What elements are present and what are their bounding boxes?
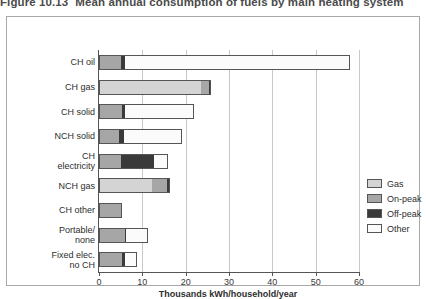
bar-segment-on-peak — [99, 55, 121, 70]
bar-segment-off-peak — [209, 80, 211, 95]
bar-segment-on-peak — [99, 129, 119, 144]
legend-swatch-icon — [367, 224, 382, 233]
figure-caption-text: Mean annual consumption of fuels by main… — [75, 0, 403, 8]
bar-segment-on-peak — [99, 154, 121, 169]
x-tick-label: 10 — [127, 277, 157, 287]
x-tick-mark — [272, 272, 273, 276]
x-tick-mark — [316, 272, 317, 276]
legend-label: Other — [387, 224, 410, 234]
category-label: NCH solid — [9, 131, 95, 141]
x-axis-title: Thousands kWh/household/year — [98, 289, 358, 299]
bar-row: CH solid — [99, 104, 359, 119]
x-tick-label: 60 — [344, 277, 374, 287]
bar-row: CH electricity — [99, 154, 359, 169]
bar-segment-on-peak — [99, 203, 121, 218]
category-label: CH other — [9, 205, 95, 215]
bar-segment-off-peak — [121, 154, 154, 169]
x-tick-mark — [99, 272, 100, 276]
legend-swatch-icon — [367, 179, 382, 188]
gridline — [359, 50, 360, 272]
bar-row: CH oil — [99, 55, 359, 70]
bar-segment-on-peak — [201, 80, 209, 95]
x-tick-label: 30 — [214, 277, 244, 287]
bar-row: CH other — [99, 203, 359, 218]
category-label: NCH gas — [9, 181, 95, 191]
category-label: CH electricity — [9, 151, 95, 171]
legend-item: Other — [367, 222, 426, 235]
bar-segment-on-peak — [152, 178, 168, 193]
legend-item: Gas — [367, 177, 426, 190]
category-label: Fixed elec. no CH — [9, 250, 95, 270]
category-label: CH solid — [9, 107, 95, 117]
figure-caption-number: Figure 10.13 — [0, 0, 68, 8]
bar-segment-other — [125, 104, 193, 119]
bar-segment-off-peak — [121, 203, 123, 218]
bar-segment-gas — [99, 178, 152, 193]
legend-swatch-icon — [367, 209, 382, 218]
x-tick-mark — [229, 272, 230, 276]
legend-swatch-icon — [367, 194, 382, 203]
x-tick-mark — [359, 272, 360, 276]
bar-segment-other — [125, 252, 137, 267]
bar-segment-gas — [99, 80, 201, 95]
bar-row: NCH solid — [99, 129, 359, 144]
bar-segment-on-peak — [99, 228, 125, 243]
bar-segment-on-peak — [99, 252, 122, 267]
bar-row: CH gas — [99, 80, 359, 95]
legend-item: Off-peak — [367, 207, 426, 220]
x-tick-mark — [186, 272, 187, 276]
x-tick-label: 40 — [257, 277, 287, 287]
category-label: CH oil — [9, 57, 95, 67]
x-tick-label: 20 — [171, 277, 201, 287]
chart-legend: GasOn-peakOff-peakOther — [367, 177, 426, 237]
category-label: Portable/ none — [9, 225, 95, 245]
legend-label: Gas — [387, 179, 404, 189]
bar-segment-off-peak — [167, 178, 169, 193]
x-tick-mark — [142, 272, 143, 276]
bar-segment-on-peak — [99, 104, 122, 119]
figure-frame: 0102030405060CH oilCH gasCH solidNCH sol… — [6, 16, 420, 286]
legend-item: On-peak — [367, 192, 426, 205]
bar-segment-other — [125, 55, 351, 70]
x-tick-label: 0 — [84, 277, 114, 287]
bar-segment-other — [126, 228, 148, 243]
bar-row: Fixed elec. no CH — [99, 252, 359, 267]
bar-row: Portable/ none — [99, 228, 359, 243]
category-label: CH gas — [9, 82, 95, 92]
legend-label: Off-peak — [387, 209, 421, 219]
figure-caption: Figure 10.13Mean annual consumption of f… — [0, 0, 426, 10]
bar-segment-other — [154, 154, 167, 169]
chart-plot-area: 0102030405060CH oilCH gasCH solidNCH sol… — [98, 50, 359, 273]
bar-row: NCH gas — [99, 178, 359, 193]
bar-segment-other — [124, 129, 183, 144]
x-tick-label: 50 — [301, 277, 331, 287]
legend-label: On-peak — [387, 194, 422, 204]
